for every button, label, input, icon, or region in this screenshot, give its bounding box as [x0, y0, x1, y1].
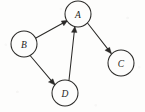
- arrowhead-into-a-from-d: [71, 27, 77, 33]
- edge-b-to-d[interactable]: [30, 56, 55, 86]
- edge-a-to-c[interactable]: [88, 23, 112, 54]
- diagram-canvas: A B C D: [0, 0, 145, 112]
- arrowhead-into-c-from-a: [105, 47, 112, 53]
- node-label-b: B: [21, 40, 27, 50]
- node-label-c: C: [118, 59, 125, 69]
- graph-node-b[interactable]: B: [11, 31, 37, 57]
- node-layer: A B C D: [11, 1, 134, 106]
- edge-layer: [30, 20, 111, 85]
- node-label-a: A: [74, 10, 81, 20]
- arrowhead-into-d-from-b: [48, 79, 55, 85]
- graph-node-a[interactable]: A: [65, 1, 91, 27]
- directed-graph: A B C D: [0, 0, 145, 112]
- edge-line-d-a: [69, 27, 75, 81]
- graph-node-d[interactable]: D: [52, 80, 78, 106]
- node-label-d: D: [61, 89, 69, 99]
- edge-d-to-a[interactable]: [69, 27, 77, 81]
- edge-b-to-a[interactable]: [36, 20, 68, 38]
- graph-node-c[interactable]: C: [108, 50, 134, 76]
